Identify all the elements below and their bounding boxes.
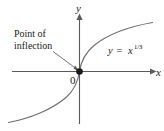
equation-lhs: y <box>107 45 113 56</box>
annotation-line-1: Point of <box>14 28 47 39</box>
inflection-point-dot <box>76 68 83 75</box>
curve-equation-label: y = x 1/3 <box>107 43 142 56</box>
origin-label: 0 <box>70 74 76 86</box>
math-figure-cube-root-graph: x y 0 Point of inflection y = x 1/3 <box>0 0 164 131</box>
annotation-leader-line <box>53 52 80 72</box>
x-axis-label: x <box>155 66 161 78</box>
annotation-line-2: inflection <box>14 40 52 51</box>
y-axis-label: y <box>75 2 81 14</box>
x-axis <box>12 68 157 74</box>
equation-base: x <box>127 45 133 56</box>
y-axis-arrowhead <box>76 14 82 21</box>
equation-exponent: 1/3 <box>134 43 142 50</box>
leader-line <box>53 52 76 69</box>
graph-canvas: x y 0 Point of inflection y = x 1/3 <box>0 0 164 131</box>
equation-operator: = <box>117 45 123 56</box>
